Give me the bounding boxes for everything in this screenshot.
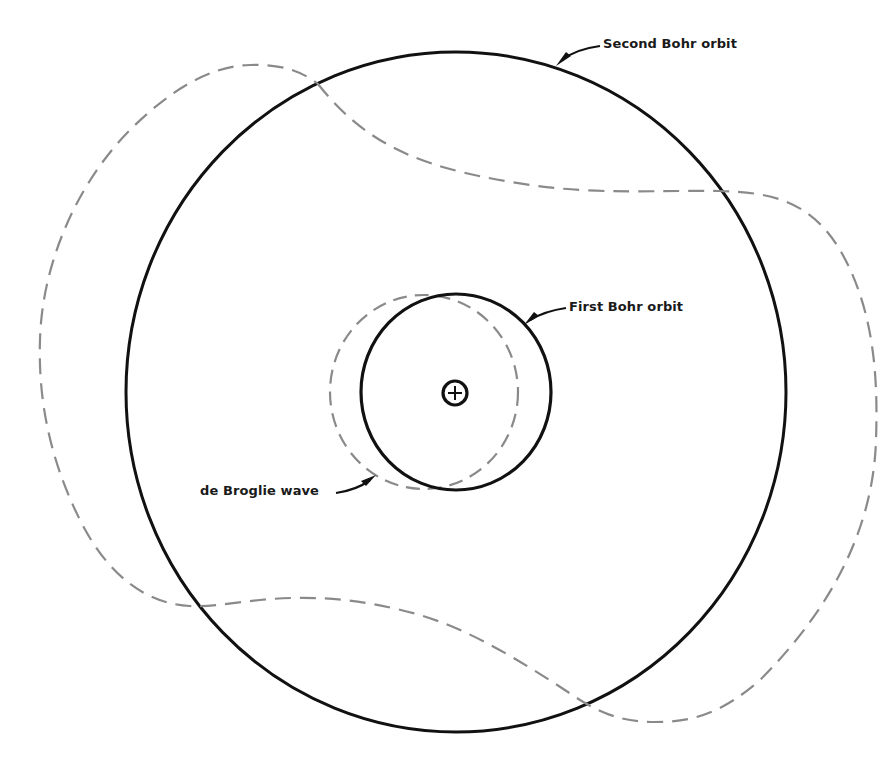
de-broglie-wave-first-orbit (330, 295, 518, 489)
bohr-orbit-diagram (0, 0, 892, 759)
first-bohr-orbit-label: First Bohr orbit (569, 299, 683, 314)
first-orbit-arrow-icon (524, 308, 566, 325)
de-broglie-arrow-icon (336, 475, 376, 493)
de-broglie-wave-label: de Broglie wave (200, 483, 319, 498)
nucleus-plus-icon (443, 381, 467, 405)
second-bohr-orbit-label: Second Bohr orbit (603, 36, 737, 51)
second-orbit-arrow-icon (556, 46, 600, 66)
